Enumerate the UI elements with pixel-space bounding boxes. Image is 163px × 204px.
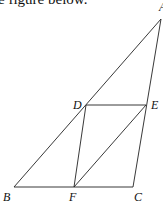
point-label-C: C [134, 190, 143, 204]
point-label-D: D [72, 98, 82, 112]
point-label-B: B [3, 190, 11, 204]
point-label-A: A [158, 0, 163, 14]
segments [14, 19, 161, 187]
point-label-F: F [68, 190, 77, 204]
segment-AB [14, 19, 161, 187]
segment-DF [74, 105, 86, 187]
point-label-E: E [150, 98, 159, 112]
geometry-figure: A B C D E F [0, 0, 163, 204]
